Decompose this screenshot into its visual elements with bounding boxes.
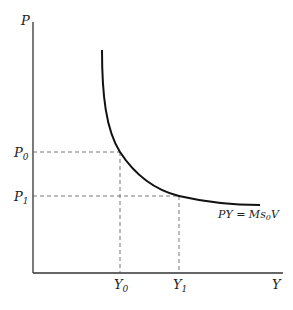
y1-label: Y1 (173, 277, 187, 294)
demand-curve (102, 50, 260, 205)
p0-label: P0 (13, 145, 29, 162)
x-axis-label: Y (272, 277, 282, 292)
y-axis-label: P (20, 13, 30, 28)
p1-label: P1 (13, 189, 28, 206)
y0-label: Y0 (114, 277, 129, 294)
curve-label: PY = Ms0V (217, 208, 280, 222)
chart: P Y P0 P1 Y0 Y1 PY = Ms0V (0, 0, 293, 310)
